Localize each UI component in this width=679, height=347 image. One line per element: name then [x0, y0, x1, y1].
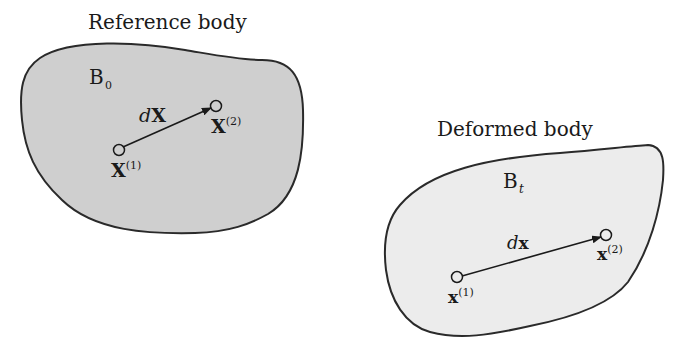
reference-body-group: Reference body B 0 dX X(1) X(2) [21, 10, 303, 233]
deformed-body-subscript: t [519, 182, 524, 196]
deformed-vector-label: dx [507, 232, 530, 253]
point-name: X [111, 159, 126, 181]
reference-vector-label: dX [139, 104, 166, 126]
deformed-body-label: B [503, 169, 518, 193]
point-superscript: (2) [226, 115, 242, 128]
deformation-diagram: Reference body B 0 dX X(1) X(2) Deformed… [0, 0, 679, 347]
vector-name: X [151, 104, 166, 126]
reference-body-title: Reference body [88, 10, 247, 34]
point-superscript: (1) [126, 159, 142, 172]
point-superscript: (2) [607, 243, 623, 256]
vector-d: d [507, 232, 519, 253]
vector-d: d [139, 104, 151, 126]
reference-body-shape [21, 43, 303, 233]
reference-body-label: B [89, 65, 104, 89]
vector-name: x [519, 233, 530, 253]
reference-body-subscript: 0 [105, 79, 112, 92]
point-name: X [211, 115, 226, 137]
deformed-body-group: Deformed body B t dx x(1) x(2) [385, 117, 664, 336]
point-superscript: (1) [458, 286, 474, 299]
deformed-body-title: Deformed body [437, 117, 593, 141]
